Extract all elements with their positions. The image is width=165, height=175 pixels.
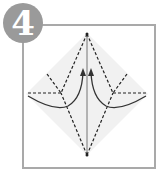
bottom-point-dot (86, 154, 89, 157)
step-number-badge: 4 (3, 3, 43, 43)
top-point-dot (86, 33, 89, 36)
